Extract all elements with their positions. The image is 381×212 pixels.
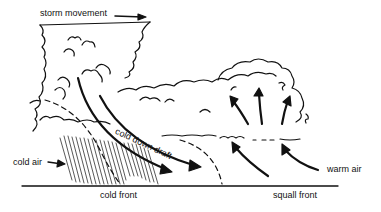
- label-cold-front: cold front: [100, 190, 137, 200]
- label-storm-movement: storm movement: [40, 8, 107, 18]
- label-warm-air: warm air: [327, 164, 362, 174]
- squall-line-diagram: storm movement cold down draft cold air …: [0, 0, 381, 212]
- inflow-arrow-2: [285, 150, 318, 170]
- label-squall-front: squall front: [273, 190, 317, 200]
- downdraft-arrow-1: [78, 78, 168, 170]
- cloud-right-edge: [125, 22, 150, 78]
- label-cold-air: cold air: [13, 157, 42, 167]
- inflow-arrow-1: [236, 148, 268, 176]
- shelf-cloud: [118, 72, 276, 92]
- diagram-drawing: [0, 0, 381, 212]
- updraft-arrow-1: [233, 101, 248, 124]
- cloud-left-edge: [33, 25, 46, 131]
- updraft-arrow-2: [259, 94, 262, 124]
- anvil-top: [40, 22, 150, 25]
